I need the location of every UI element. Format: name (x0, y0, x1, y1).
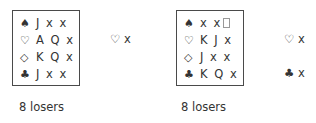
hand-2-spades-row: ♠x x (184, 15, 230, 31)
spade-icon: ♠ (20, 16, 36, 32)
heart-icon: ♡ (110, 32, 120, 46)
hand-1-clubs-row: ♣J x x (20, 66, 68, 82)
spades-cards: x x (200, 16, 222, 30)
side-cards: x (298, 32, 305, 46)
side-holding-2-clubs: ♣ x (284, 66, 305, 80)
hand-2-clubs-row: ♣K Q x (184, 66, 238, 82)
losers-label-2: 8 losers (181, 100, 226, 114)
heart-icon: ♡ (20, 33, 36, 49)
hand-box-1: ♠J x x ♡A Q x ◇K Q x ♣J x x (12, 10, 80, 86)
clubs-cards: K Q x (200, 67, 238, 81)
side-holding-2-hearts: ♡ x (284, 32, 305, 46)
spades-cards: J x x (36, 16, 68, 30)
hearts-cards: A Q x (36, 33, 75, 47)
diamond-icon: ◇ (20, 50, 36, 66)
heart-icon: ♡ (184, 33, 200, 49)
side-holding-1-hearts: ♡ x (110, 32, 131, 46)
diamonds-cards: K Q x (36, 50, 74, 64)
hand-2-diamonds-row: ◇J x x (184, 49, 232, 65)
club-icon: ♣ (284, 66, 294, 80)
hearts-cards: K J x (200, 33, 233, 47)
club-icon: ♣ (184, 67, 200, 83)
club-icon: ♣ (20, 67, 36, 83)
diamonds-cards: J x x (200, 50, 232, 64)
hand-1-spades-row: ♠J x x (20, 15, 68, 31)
side-cards: x (298, 66, 305, 80)
clubs-cards: J x x (36, 67, 68, 81)
diamond-icon: ◇ (184, 50, 200, 66)
hand-box-2: ♠x x ♡K J x ◇J x x ♣K Q x (176, 10, 244, 86)
heart-icon: ♡ (284, 32, 294, 46)
hand-2-hearts-row: ♡K J x (184, 32, 233, 48)
losers-label-1: 8 losers (19, 100, 64, 114)
spade-icon: ♠ (184, 16, 200, 32)
missing-glyph-box (223, 18, 230, 28)
hand-1-hearts-row: ♡A Q x (20, 32, 75, 48)
side-cards: x (124, 32, 131, 46)
hand-1-diamonds-row: ◇K Q x (20, 49, 74, 65)
